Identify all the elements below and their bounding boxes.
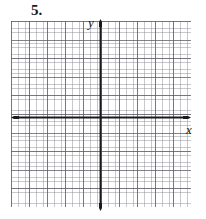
x-axis-label: x	[186, 123, 192, 137]
y-axis-line	[99, 19, 102, 211]
worksheet-graph-figure: 5. y x	[0, 0, 206, 219]
y-axis-label: y	[88, 16, 94, 30]
problem-number-label: 5.	[31, 1, 42, 19]
